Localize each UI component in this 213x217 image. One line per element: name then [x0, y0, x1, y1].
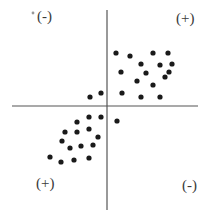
data-points [47, 50, 174, 164]
data-point [90, 142, 95, 147]
data-point [87, 94, 92, 99]
data-point [59, 138, 64, 143]
data-point [165, 50, 170, 55]
quadrant-label-top-left: (-) [37, 8, 52, 25]
data-point [47, 154, 52, 159]
data-point [157, 62, 162, 67]
data-point [62, 129, 67, 134]
data-point [119, 90, 124, 95]
data-point [67, 145, 72, 150]
data-point [113, 50, 118, 55]
data-point [86, 114, 91, 119]
quadrant-label-bottom-left: (+) [36, 175, 54, 192]
data-point [114, 118, 119, 123]
data-point [127, 53, 132, 58]
stray-mark [32, 12, 35, 15]
data-point [138, 61, 143, 66]
data-point [118, 69, 123, 74]
data-point [98, 90, 103, 95]
data-point [150, 82, 155, 87]
data-point [143, 70, 148, 75]
data-point [150, 50, 155, 55]
data-point [74, 119, 79, 124]
data-point [74, 129, 79, 134]
quadrant-label-top-right: (+) [176, 10, 194, 27]
data-point [157, 94, 162, 99]
quadrant-label-bottom-right: (-) [182, 177, 197, 194]
data-point [86, 126, 91, 131]
data-point [86, 155, 91, 160]
data-point [95, 134, 100, 139]
data-point [58, 159, 63, 164]
scatter-diagram: (-) (+) (+) (-) [0, 0, 213, 217]
data-point [71, 157, 76, 162]
data-point [78, 143, 83, 148]
data-point [134, 78, 139, 83]
data-point [169, 61, 174, 66]
data-point [162, 74, 167, 79]
data-point [138, 94, 143, 99]
data-point [166, 69, 171, 74]
data-point [98, 114, 103, 119]
